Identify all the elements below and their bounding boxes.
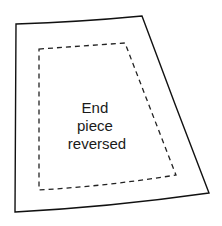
label-line-3: reversed: [68, 135, 126, 152]
pattern-piece-diagram: End piece reversed: [0, 0, 222, 226]
label-line-1: End: [82, 99, 109, 116]
label-line-2: piece: [77, 117, 113, 134]
